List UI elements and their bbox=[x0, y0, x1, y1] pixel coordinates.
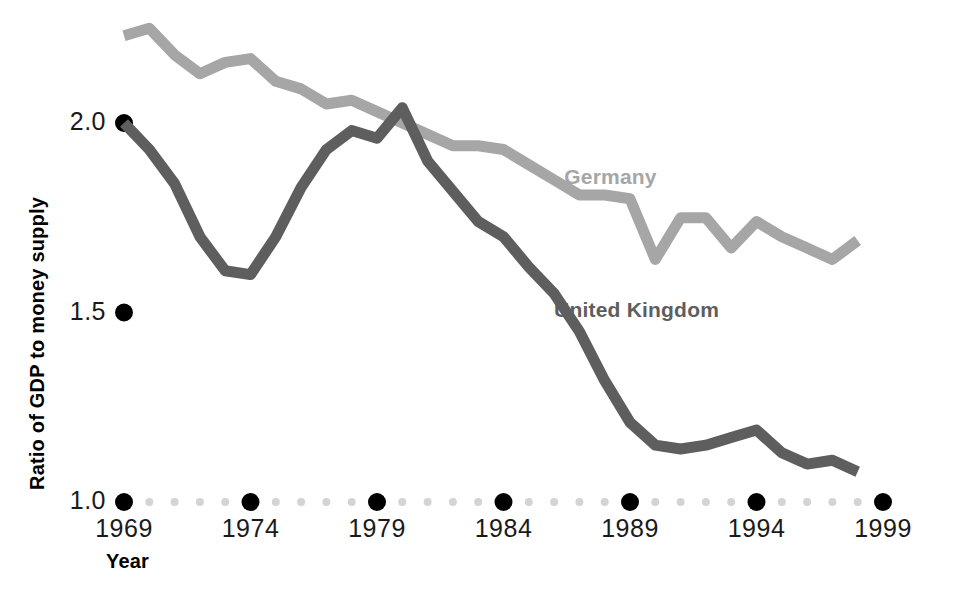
x-axis-minor-dot bbox=[727, 498, 735, 506]
x-axis-minor-dot bbox=[677, 498, 685, 506]
y-tick-label-2-0: 2.0 bbox=[0, 107, 106, 136]
x-axis-minor-dot bbox=[348, 498, 356, 506]
data-series-lines bbox=[124, 28, 858, 471]
series-label-germany: Germany bbox=[564, 165, 656, 189]
x-axis-title: Year bbox=[106, 550, 149, 573]
x-axis-minor-dot bbox=[322, 498, 330, 506]
x-axis-minor-dot bbox=[550, 498, 558, 506]
y-tick-label-1-0: 1.0 bbox=[0, 486, 106, 515]
x-axis-minor-dot bbox=[171, 498, 179, 506]
y-axis-title: Ratio of GDP to money supply bbox=[26, 197, 49, 490]
y-axis-tick-dots bbox=[115, 114, 133, 322]
x-axis-minor-dot bbox=[854, 498, 862, 506]
x-axis-minor-dot bbox=[803, 498, 811, 506]
y-axis-tick-dot bbox=[115, 304, 133, 322]
x-tick-label-1999: 1999 bbox=[823, 514, 943, 543]
x-tick-label-1969: 1969 bbox=[64, 514, 184, 543]
x-axis-major-dot bbox=[621, 493, 639, 511]
x-axis-minor-dot bbox=[398, 498, 406, 506]
x-axis-major-dot bbox=[495, 493, 513, 511]
x-tick-label-1984: 1984 bbox=[444, 514, 564, 543]
x-axis-minor-dot bbox=[272, 498, 280, 506]
chart-figure: Ratio of GDP to money supply Year 2.0 1.… bbox=[0, 0, 963, 599]
series-line-united-kingdom bbox=[124, 108, 858, 472]
chart-plot-area bbox=[0, 0, 963, 599]
x-axis-minor-dot bbox=[651, 498, 659, 506]
x-axis-minor-dot bbox=[828, 498, 836, 506]
x-tick-label-1974: 1974 bbox=[191, 514, 311, 543]
series-label-united-kingdom: United Kingdom bbox=[554, 298, 719, 322]
x-axis-minor-dot bbox=[297, 498, 305, 506]
x-axis-major-dot bbox=[115, 493, 133, 511]
x-axis-minor-dot bbox=[525, 498, 533, 506]
x-axis-minor-dot bbox=[474, 498, 482, 506]
x-axis-minor-dot bbox=[778, 498, 786, 506]
x-axis-minor-dot bbox=[449, 498, 457, 506]
x-axis-major-dot bbox=[368, 493, 386, 511]
x-axis-minor-dot bbox=[702, 498, 710, 506]
x-tick-label-1989: 1989 bbox=[570, 514, 690, 543]
x-axis-major-dots bbox=[115, 493, 892, 511]
x-axis-minor-dot bbox=[601, 498, 609, 506]
y-tick-label-1-5: 1.5 bbox=[0, 297, 106, 326]
x-axis-minor-dot bbox=[145, 498, 153, 506]
x-axis-minor-dot bbox=[575, 498, 583, 506]
x-axis-minor-dot bbox=[196, 498, 204, 506]
x-tick-label-1994: 1994 bbox=[697, 514, 817, 543]
x-tick-label-1979: 1979 bbox=[317, 514, 437, 543]
x-axis-major-dot bbox=[242, 493, 260, 511]
x-axis-minor-dot bbox=[221, 498, 229, 506]
x-axis-minor-dot bbox=[424, 498, 432, 506]
x-axis-major-dot bbox=[748, 493, 766, 511]
x-axis-major-dot bbox=[874, 493, 892, 511]
